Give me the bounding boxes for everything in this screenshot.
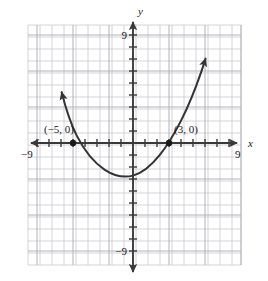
y-axis-tick-label-neg-nine: −9 — [115, 245, 127, 257]
x-intercept-left-label: (−5, 0) — [44, 123, 74, 136]
graph-figure: (−5, 0) (3, 0) y x −9 9 9 −9 — [0, 0, 268, 281]
x-intercept-right-label: (3, 0) — [174, 123, 198, 136]
y-axis-label: y — [137, 5, 143, 17]
x-intercept-left-dot — [70, 140, 76, 146]
x-intercept-right-dot — [166, 140, 172, 146]
x-axis-tick-label-neg-nine: −9 — [21, 148, 33, 160]
x-axis-label: x — [247, 137, 253, 149]
x-axis-tick-label-pos-nine: 9 — [235, 148, 241, 160]
grid-lines — [28, 25, 241, 265]
y-axis-tick-label-pos-nine: 9 — [122, 29, 128, 41]
coordinate-plane-svg: (−5, 0) (3, 0) y x −9 9 9 −9 — [0, 0, 268, 281]
